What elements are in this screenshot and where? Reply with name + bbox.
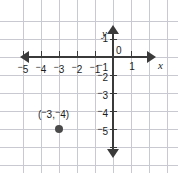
x-tick-label-1: 1 [124, 62, 140, 72]
grid-line-horizontal [0, 93, 178, 94]
y-axis [112, 33, 114, 150]
grid-line-horizontal [0, 165, 178, 166]
grid-line-horizontal [0, 39, 178, 40]
x-axis-tick [95, 51, 96, 58]
origin-label: 0 [116, 46, 122, 56]
y-axis-tick [110, 93, 117, 94]
grid-line-horizontal [0, 21, 178, 22]
y-axis-tick [110, 111, 117, 112]
y-axis-arrow-up [107, 25, 119, 34]
x-axis-arrow-right [147, 51, 156, 63]
y-tick-label--5: −5 [92, 124, 108, 137]
x-tick-label--3: −3 [51, 62, 67, 75]
grid-line-horizontal [0, 75, 178, 76]
x-axis-label: x [158, 60, 163, 71]
y-tick-label--4: −4 [92, 106, 108, 119]
plotted-point-label: (−3,−4) [38, 107, 69, 120]
y-axis-tick [110, 39, 117, 40]
x-axis-tick [131, 51, 132, 58]
y-axis-label: y [102, 28, 107, 39]
x-axis-tick [41, 51, 42, 58]
x-tick-label--2: −2 [69, 62, 85, 75]
x-axis-tick [77, 51, 78, 58]
plotted-point [55, 125, 63, 133]
grid-line-horizontal [0, 111, 178, 112]
x-tick-label--4: −4 [33, 62, 49, 75]
y-axis-tick [110, 129, 117, 130]
coordinate-plane: −5 −4 −3 −2 −1 1 1 −1 −2 −3 −4 −5 0 x y … [0, 0, 178, 173]
x-tick-label--5: −5 [15, 62, 31, 75]
y-tick-label--2: −2 [92, 70, 108, 83]
y-axis-arrow-down [107, 149, 119, 158]
y-axis-tick [110, 75, 117, 76]
x-axis-tick [59, 51, 60, 58]
grid-line-horizontal [0, 147, 178, 148]
x-axis-tick [23, 51, 24, 58]
x-axis [28, 56, 148, 58]
grid-line-horizontal [0, 129, 178, 130]
y-axis-tick [110, 147, 117, 148]
y-tick-label--3: −3 [92, 88, 108, 101]
